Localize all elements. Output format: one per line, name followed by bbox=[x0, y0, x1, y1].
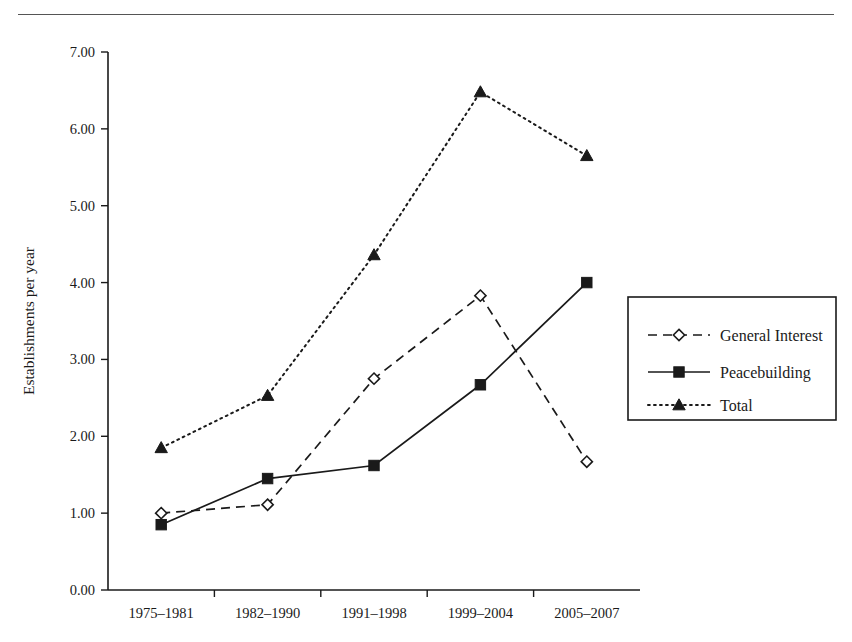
series-general-interest bbox=[156, 290, 593, 519]
data-point-marker bbox=[475, 380, 485, 390]
data-point-marker bbox=[582, 277, 592, 287]
x-tick-label: 1999–2004 bbox=[448, 605, 514, 621]
legend-label: General Interest bbox=[720, 327, 823, 344]
x-tick-label: 1991–1998 bbox=[341, 605, 406, 621]
series-line bbox=[161, 283, 587, 525]
chart-axes bbox=[108, 52, 640, 590]
chart-series-layer bbox=[155, 86, 593, 530]
line-chart: 0.001.002.003.004.005.006.007.00 1975–19… bbox=[0, 0, 852, 642]
x-tick-label: 1982–1990 bbox=[235, 605, 300, 621]
figure-canvas: 0.001.002.003.004.005.006.007.00 1975–19… bbox=[0, 0, 852, 642]
x-tick-label: 2005–2007 bbox=[554, 605, 619, 621]
data-point-marker bbox=[581, 150, 593, 161]
y-tick-label: 2.00 bbox=[70, 428, 95, 444]
y-tick-label: 4.00 bbox=[70, 275, 95, 291]
data-point-marker bbox=[369, 460, 379, 470]
legend-label: Peacebuilding bbox=[720, 364, 811, 382]
series-line bbox=[161, 296, 587, 514]
data-point-marker bbox=[156, 508, 167, 519]
x-tick-label: 1975–1981 bbox=[129, 605, 194, 621]
data-point-marker bbox=[581, 456, 592, 467]
legend-marker-1 bbox=[674, 367, 684, 377]
chart-legend: General InterestPeacebuildingTotal bbox=[628, 297, 836, 420]
series-peacebuilding bbox=[156, 277, 592, 530]
data-point-marker bbox=[156, 519, 166, 529]
legend-label: Total bbox=[720, 397, 753, 414]
y-tick-label: 6.00 bbox=[70, 121, 95, 137]
data-point-marker bbox=[262, 473, 272, 483]
y-tick-label: 1.00 bbox=[70, 505, 95, 521]
series-line bbox=[161, 92, 587, 448]
data-point-marker bbox=[368, 249, 380, 260]
y-tick-label: 5.00 bbox=[70, 198, 95, 214]
data-point-marker bbox=[474, 86, 486, 97]
data-point-marker bbox=[475, 290, 486, 301]
y-tick-label: 0.00 bbox=[70, 582, 95, 598]
series-total bbox=[155, 86, 593, 453]
data-point-marker bbox=[155, 442, 167, 453]
y-axis-title: Establishments per year bbox=[20, 246, 37, 395]
x-axis-ticks bbox=[214, 590, 533, 597]
y-tick-label: 3.00 bbox=[70, 351, 95, 367]
y-axis-tick-labels: 0.001.002.003.004.005.006.007.00 bbox=[70, 44, 95, 598]
y-tick-label: 7.00 bbox=[70, 44, 95, 60]
data-point-marker bbox=[261, 389, 273, 400]
x-axis-tick-labels: 1975–19811982–19901991–19981999–20042005… bbox=[129, 605, 620, 621]
y-axis-ticks bbox=[101, 52, 108, 590]
